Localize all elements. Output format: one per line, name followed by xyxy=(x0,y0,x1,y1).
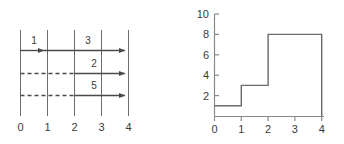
ytick-label-4: 4 xyxy=(203,69,209,81)
ytick-label-10: 10 xyxy=(197,8,209,20)
left-xtick-3: 3 xyxy=(98,121,104,133)
xtick-label-4: 4 xyxy=(319,123,325,135)
arrow-row-2-label: 5 xyxy=(91,80,97,91)
step-function-chart-svg: 2 4 6 8 10 0 1 2 3 4 xyxy=(172,0,344,144)
xtick-label-0: 0 xyxy=(211,123,217,135)
step-function-chart-panel: 2 4 6 8 10 0 1 2 3 4 xyxy=(172,0,344,144)
step-function-path xyxy=(215,34,322,116)
arrow-row-2: 5 xyxy=(21,80,126,96)
figure-container: 1 3 2 5 0 1 2 3 4 xyxy=(0,0,344,144)
ytick-label-2: 2 xyxy=(203,90,209,102)
xtick-label-1: 1 xyxy=(238,123,244,135)
x-tick-labels: 0 1 2 3 4 xyxy=(211,123,324,135)
interval-arrow-diagram-panel: 1 3 2 5 0 1 2 3 4 xyxy=(0,0,172,144)
arrow-row-1-label: 2 xyxy=(91,58,97,69)
arrow-row-0-label: 1 xyxy=(31,35,37,46)
ytick-label-8: 8 xyxy=(203,28,209,40)
arrow-row-1: 2 xyxy=(21,58,126,74)
left-xtick-4: 4 xyxy=(125,121,131,133)
arrow-row-0-extra-label: 3 xyxy=(85,35,91,46)
x-ticks xyxy=(215,117,322,122)
arrow-row-0: 1 3 xyxy=(21,35,126,51)
left-x-tick-labels: 0 1 2 3 4 xyxy=(17,121,131,133)
xtick-label-2: 2 xyxy=(265,123,271,135)
interval-arrow-diagram-svg: 1 3 2 5 0 1 2 3 4 xyxy=(0,0,172,144)
ytick-label-6: 6 xyxy=(203,49,209,61)
left-xtick-0: 0 xyxy=(17,121,23,133)
y-tick-labels: 2 4 6 8 10 xyxy=(197,8,209,102)
y-ticks xyxy=(215,14,220,96)
left-xtick-2: 2 xyxy=(71,121,77,133)
xtick-label-3: 3 xyxy=(292,123,298,135)
left-xtick-1: 1 xyxy=(44,121,50,133)
